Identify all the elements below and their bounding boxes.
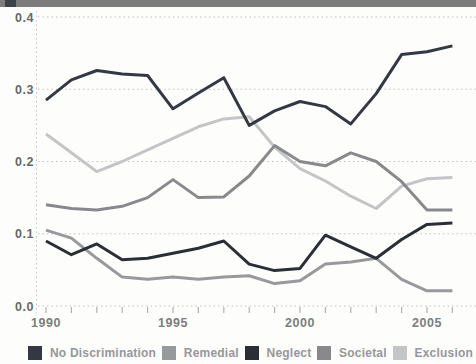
legend-item-remedial: Remedial bbox=[162, 346, 239, 360]
legend-label: Neglect bbox=[267, 346, 312, 360]
legend-swatch-neglect bbox=[245, 346, 259, 360]
legend-label: Remedial bbox=[184, 346, 239, 360]
y-tick-label: 0.2 bbox=[15, 155, 34, 169]
x-tick-label: 1995 bbox=[158, 316, 188, 330]
legend-swatch-remedial bbox=[162, 346, 176, 360]
legend-label: Exclusion bbox=[415, 346, 473, 360]
legend-swatch-societal bbox=[317, 346, 331, 360]
legend-label: No Discrimination bbox=[50, 346, 156, 360]
legend-item-exclusion: Exclusion bbox=[393, 346, 473, 360]
x-tick-label: 2005 bbox=[412, 316, 442, 330]
legend-swatch-no-discrimination bbox=[28, 346, 42, 360]
legend-item-societal: Societal bbox=[317, 346, 387, 360]
chart-legend: No Discrimination Remedial Neglect Socie… bbox=[0, 341, 476, 364]
series-line-no-discrimination bbox=[46, 46, 452, 126]
y-tick-label: 0.0 bbox=[15, 300, 34, 314]
y-tick-label: 0.3 bbox=[15, 83, 34, 97]
x-tick-label: 1990 bbox=[31, 316, 61, 330]
legend-swatch-exclusion bbox=[393, 346, 407, 360]
y-tick-label: 0.4 bbox=[15, 11, 34, 25]
series-line-neglect bbox=[46, 223, 452, 271]
line-chart: 0.00.10.20.30.41990199520002005 bbox=[0, 0, 476, 340]
legend-item-no-discrimination: No Discrimination bbox=[28, 346, 156, 360]
figure: 0.00.10.20.30.41990199520002005 No Discr… bbox=[0, 0, 476, 364]
series-line-exclusion bbox=[46, 117, 452, 209]
series-line-societal bbox=[46, 146, 452, 210]
series-line-remedial bbox=[46, 230, 452, 291]
y-tick-label: 0.1 bbox=[15, 227, 34, 241]
legend-label: Societal bbox=[339, 346, 387, 360]
x-tick-label: 2000 bbox=[285, 316, 315, 330]
legend-item-neglect: Neglect bbox=[245, 346, 312, 360]
